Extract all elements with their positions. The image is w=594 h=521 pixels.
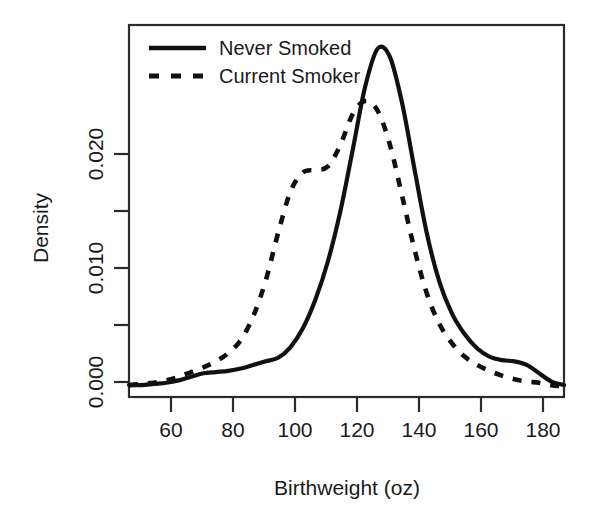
chart-canvas: 60 80 100 120 140 160 180 0.000 0.010 0.… [0,0,594,521]
never-smoked-curve [129,47,564,386]
x-tick-label-1: 80 [221,418,244,441]
y-tick-label-0: 0.000 [84,356,107,409]
x-tick-label-0: 60 [159,418,182,441]
y-axis-ticks [114,154,129,382]
y-tick-label-2: 0.020 [84,128,107,181]
x-tick-label-5: 160 [463,418,498,441]
current-smoker-curve [129,101,564,386]
y-axis-tick-labels: 0.000 0.010 0.020 [84,128,107,409]
legend-label-never-smoked: Never Smoked [219,37,351,59]
legend: Never Smoked Current Smoker [149,37,360,87]
y-axis-title: Density [29,192,52,263]
x-tick-label-2: 100 [277,418,312,441]
x-axis-title: Birthweight (oz) [274,476,420,499]
data-curves [129,47,564,387]
x-tick-label-4: 140 [401,418,436,441]
x-axis-ticks [171,397,543,412]
y-tick-label-1: 0.010 [84,242,107,295]
density-plot-figure: 60 80 100 120 140 160 180 0.000 0.010 0.… [0,0,594,521]
x-tick-label-6: 180 [525,418,560,441]
x-axis-tick-labels: 60 80 100 120 140 160 180 [159,418,560,441]
x-tick-label-3: 120 [339,418,374,441]
legend-label-current-smoker: Current Smoker [219,65,360,87]
